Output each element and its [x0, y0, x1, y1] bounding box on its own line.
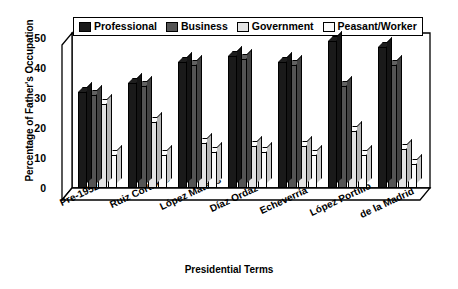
bar-side	[347, 76, 352, 183]
legend-item: Business	[166, 21, 228, 32]
legend-item: Peasant/Worker	[323, 21, 417, 32]
bar-side	[357, 121, 362, 183]
bar	[278, 62, 287, 188]
bar	[128, 83, 137, 188]
legend-label: Business	[181, 21, 228, 32]
legend-item: Professional	[79, 21, 157, 32]
y-tick-label: 30	[20, 93, 46, 104]
bar	[228, 56, 237, 188]
y-tick-label: 50	[20, 33, 46, 44]
bar-side	[157, 112, 162, 183]
bar-side	[147, 76, 152, 183]
y-tick-label: 20	[20, 123, 46, 134]
bar-side	[397, 55, 402, 183]
bar-side	[317, 145, 322, 183]
bar-side	[367, 145, 372, 183]
bar-side	[297, 55, 302, 183]
legend-label: Government	[252, 21, 314, 32]
bar-side	[207, 133, 212, 183]
bar-side	[217, 142, 222, 183]
bar-side	[287, 52, 292, 183]
y-tick-label: 40	[20, 63, 46, 74]
bar-side	[197, 55, 202, 183]
legend-swatch	[166, 22, 178, 32]
bar-face	[328, 41, 337, 188]
bar-side	[87, 82, 92, 183]
bar	[378, 47, 387, 188]
chart-legend: ProfessionalBusinessGovernmentPeasant/Wo…	[73, 17, 423, 36]
bar-side	[257, 136, 262, 183]
bar-face	[178, 62, 187, 188]
bar-side	[247, 49, 252, 183]
bar-side	[267, 142, 272, 183]
bar-side	[107, 94, 112, 183]
y-axis-ticks: 01020304050	[18, 0, 46, 289]
legend-item: Government	[237, 21, 314, 32]
x-tick-label: Echeverría	[258, 184, 309, 216]
bar-side	[237, 46, 242, 183]
bar-face	[128, 83, 137, 188]
plot-area	[62, 24, 430, 188]
bar-side	[137, 73, 142, 183]
bar-face	[378, 47, 387, 188]
x-axis-title: Presidential Terms	[0, 264, 458, 275]
bar-side	[97, 85, 102, 183]
bar-side	[307, 136, 312, 183]
y-tick-label: 10	[20, 153, 46, 164]
bar-side	[167, 145, 172, 183]
bar-side	[187, 52, 192, 183]
bar-chart: Percentage of Father's Occupation 010203…	[0, 0, 458, 289]
legend-swatch	[79, 22, 91, 32]
bar	[178, 62, 187, 188]
legend-swatch	[237, 22, 249, 32]
bar	[78, 92, 87, 188]
legend-label: Peasant/Worker	[338, 21, 417, 32]
bar-side	[337, 31, 342, 183]
legend-swatch	[323, 22, 335, 32]
bar-side	[407, 139, 412, 183]
bar-side	[117, 145, 122, 183]
y-tick-label: 0	[20, 183, 46, 194]
bar-face	[228, 56, 237, 188]
legend-label: Professional	[94, 21, 157, 32]
bar-side	[417, 154, 422, 183]
bar-face	[278, 62, 287, 188]
bar-face	[78, 92, 87, 188]
bar	[328, 41, 337, 188]
bar-side	[387, 37, 392, 183]
